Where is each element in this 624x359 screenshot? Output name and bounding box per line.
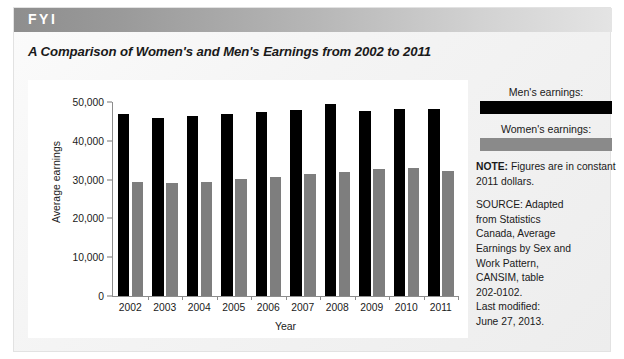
y-tick-label: 50,000 (56, 97, 104, 108)
bar-women (132, 182, 144, 296)
x-tick-mark (182, 296, 183, 300)
bar-group (394, 102, 420, 296)
bar-women (304, 174, 316, 296)
x-tick-mark (286, 296, 287, 300)
bar-women (270, 177, 282, 297)
bar-group (325, 102, 351, 296)
y-axis-tick-labels: 010,00020,00030,00040,00050,000 (56, 80, 104, 338)
bar-group (152, 102, 178, 296)
x-tick-label: 2011 (419, 302, 463, 313)
source-line: SOURCE: Adapted (476, 198, 616, 213)
bar-group (359, 102, 385, 296)
bar-men (290, 110, 302, 296)
legend-men-swatch (480, 101, 612, 114)
bar-group (428, 102, 454, 296)
note-label: NOTE: (476, 161, 508, 172)
source-line: Canada, Average (476, 227, 616, 242)
y-tick-label: 10,000 (56, 252, 104, 263)
bar-men (325, 104, 337, 296)
bar-group (187, 102, 213, 296)
chart-container: Average earnings 010,00020,00030,00040,0… (28, 80, 468, 338)
x-tick-mark (355, 296, 356, 300)
legend-men-label: Men's earnings: (476, 86, 616, 98)
x-tick-mark (320, 296, 321, 300)
bar-men (256, 112, 268, 296)
y-tick-mark (107, 102, 112, 103)
source-line: CANSIM, table (476, 271, 616, 286)
source-line: Work Pattern, (476, 257, 616, 272)
y-tick-label: 20,000 (56, 213, 104, 224)
bar-group (221, 102, 247, 296)
x-tick-mark (458, 296, 459, 300)
plot-area (113, 102, 458, 296)
y-tick-label: 40,000 (56, 135, 104, 146)
source-line: June 27, 2013. (476, 315, 616, 330)
x-tick-mark (424, 296, 425, 300)
bar-women (408, 168, 420, 296)
bar-women (235, 179, 247, 296)
y-tick-mark (107, 296, 112, 297)
bar-men (221, 114, 233, 296)
y-tick-mark (107, 218, 112, 219)
fyi-panel: FYI A Comparison of Women's and Men's Ea… (13, 7, 611, 352)
bar-women (373, 169, 385, 296)
bar-men (428, 109, 440, 296)
bar-women (201, 182, 213, 296)
figure-title: A Comparison of Women's and Men's Earnin… (28, 44, 431, 59)
y-tick-mark (107, 257, 112, 258)
bar-women (166, 183, 178, 296)
fyi-banner-label: FYI (28, 11, 57, 27)
bar-women (339, 172, 351, 296)
bar-women (442, 171, 454, 296)
source-line: Earnings by Sex and (476, 242, 616, 257)
y-tick-label: 30,000 (56, 174, 104, 185)
source-line: Last modified: (476, 300, 616, 315)
note-block: NOTE: Figures are in constant 2011 dolla… (476, 160, 616, 189)
x-tick-mark (251, 296, 252, 300)
plot-wrapper: Average earnings 010,00020,00030,00040,0… (28, 80, 468, 338)
y-tick-mark (107, 179, 112, 180)
x-tick-mark (389, 296, 390, 300)
bar-men (118, 114, 130, 296)
source-line: from Statistics (476, 213, 616, 228)
bar-men (359, 111, 371, 296)
bar-men (152, 118, 164, 296)
source-block: SOURCE: Adaptedfrom StatisticsCanada, Av… (476, 198, 616, 329)
legend-women-swatch (480, 138, 612, 151)
fyi-banner: FYI (14, 8, 612, 32)
y-tick-mark (107, 140, 112, 141)
x-axis-label: Year (113, 320, 458, 332)
y-tick-label: 0 (56, 291, 104, 302)
bar-group (290, 102, 316, 296)
chart-side-panel: Men's earnings: Women's earnings: NOTE: … (476, 86, 616, 330)
x-tick-mark (148, 296, 149, 300)
bar-men (394, 109, 406, 296)
bar-group (118, 102, 144, 296)
bar-men (187, 116, 199, 296)
source-line: 202-0102. (476, 286, 616, 301)
bar-group (256, 102, 282, 296)
legend-women-label: Women's earnings: (476, 123, 616, 135)
x-tick-mark (217, 296, 218, 300)
